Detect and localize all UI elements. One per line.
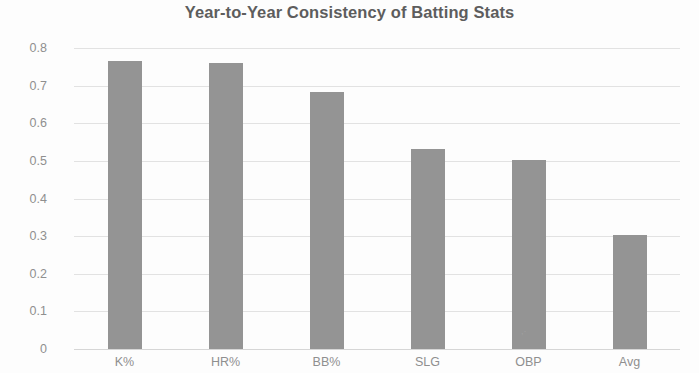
y-axis-tick-label: 0.5 (7, 154, 47, 168)
y-axis-tick-label: 0.6 (7, 116, 47, 130)
gridline-0-7 (74, 86, 680, 87)
scan-artifact-mark: ,· (521, 327, 537, 336)
gridline-0-4 (74, 199, 680, 200)
x-axis-tick-label: BB% (282, 355, 372, 369)
gridline-0-6 (74, 123, 680, 124)
y-axis-tick-label: 0.7 (7, 79, 47, 93)
bar-kpct (108, 61, 142, 349)
y-axis-tick-label: 0.8 (7, 41, 47, 55)
bar-chart: Year-to-Year Consistency of Batting Stat… (0, 0, 699, 373)
x-axis-tick-label: K% (80, 355, 170, 369)
y-axis-tick-label: 0 (7, 342, 47, 356)
x-axis-tick-label: SLG (383, 355, 473, 369)
bar-bbpct (310, 92, 344, 349)
x-axis-tick-label: HR% (181, 355, 271, 369)
bar-obp (512, 160, 546, 349)
y-axis-tick-label: 0.2 (7, 267, 47, 281)
gridline-0 (74, 349, 680, 350)
gridline-0-1 (74, 311, 680, 312)
y-axis-tick-label: 0.3 (7, 229, 47, 243)
chart-title: Year-to-Year Consistency of Batting Stat… (0, 3, 699, 22)
gridline-0-3 (74, 236, 680, 237)
bar-slg (411, 149, 445, 349)
plot-area: 00.10.20.30.40.50.60.70.8K%HR%BB%SLGOBPA… (74, 48, 680, 349)
x-axis-tick-label: OBP (484, 355, 574, 369)
y-axis-tick-label: 0.1 (7, 304, 47, 318)
bar-avg (613, 235, 647, 349)
gridline-0-2 (74, 274, 680, 275)
gridline-0-8 (74, 48, 680, 49)
y-axis-tick-label: 0.4 (7, 192, 47, 206)
bar-hrpct (209, 63, 243, 349)
x-axis-tick-label: Avg (585, 355, 675, 369)
gridline-0-5 (74, 161, 680, 162)
